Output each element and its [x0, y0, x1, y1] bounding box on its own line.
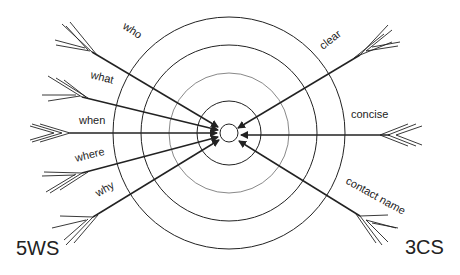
label-who: who	[120, 19, 144, 41]
label-where: where	[73, 145, 106, 164]
label-clear: clear	[317, 27, 343, 51]
arrow-when	[30, 124, 217, 142]
arrow-concise	[241, 124, 422, 146]
label-when: when	[78, 114, 105, 126]
label-what: what	[89, 68, 115, 86]
arrow-where	[42, 137, 218, 193]
label-contact-name: contact name	[344, 174, 408, 217]
group-label-3cs: 3CS	[405, 236, 444, 258]
target-diagram: who what when where why clear concise co…	[0, 0, 460, 275]
label-concise: concise	[351, 108, 388, 120]
arrow-what	[42, 76, 218, 130]
label-why: why	[92, 178, 116, 199]
group-label-5ws: 5WS	[16, 237, 59, 259]
